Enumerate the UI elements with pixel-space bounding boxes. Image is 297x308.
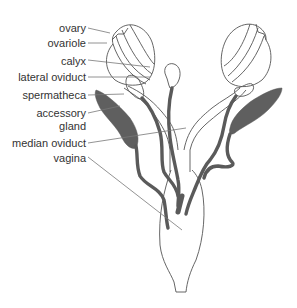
accessory-gland-right xyxy=(229,88,282,134)
label-spermatheca: spermatheca xyxy=(22,89,86,101)
label-ovariole: ovariole xyxy=(47,37,86,49)
label-accessory-gland-line2: gland xyxy=(59,120,86,132)
leader-vagina xyxy=(88,157,182,230)
label-ovary: ovary xyxy=(59,22,86,34)
leader-spermatheca xyxy=(88,94,124,95)
accessory-gland-left xyxy=(95,90,138,149)
ducts xyxy=(136,88,236,228)
label-calyx: calyx xyxy=(61,55,86,67)
reproductive-system-diagram xyxy=(0,0,297,308)
leader-ovary xyxy=(88,28,110,33)
label-accessory-gland-line1: accessory xyxy=(36,107,86,119)
label-lateral-oviduct: lateral oviduct xyxy=(18,71,86,83)
label-vagina: vagina xyxy=(54,152,86,164)
label-median-oviduct: median oviduct xyxy=(12,137,86,149)
right-ovary xyxy=(184,24,271,150)
spermatheca-center xyxy=(165,64,180,88)
